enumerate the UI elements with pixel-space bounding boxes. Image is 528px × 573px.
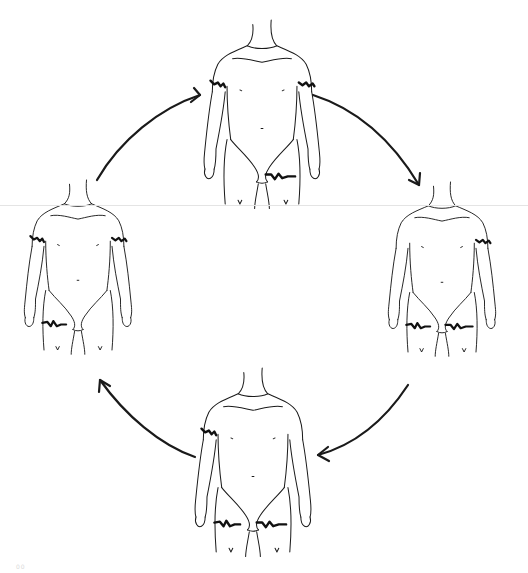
arrow-right-to-bottom: [318, 385, 408, 461]
figure-top: [204, 20, 320, 209]
arrow-bottom-to-left: [99, 380, 195, 457]
arrowhead-icon: [191, 88, 200, 102]
figure-left: [24, 180, 131, 354]
band-right-thigh: [406, 323, 430, 328]
band-right-thigh: [42, 321, 66, 326]
figure-right: [388, 182, 495, 356]
band-left-upper-arm: [476, 240, 490, 243]
figure-bottom: [195, 368, 311, 557]
band-left-thigh: [257, 522, 286, 528]
band-left-thigh: [445, 324, 472, 329]
corner-mark: 00: [16, 563, 26, 570]
scan-line-divider: [0, 205, 528, 206]
band-left-thigh: [266, 174, 295, 180]
band-left-upper-arm: [299, 83, 315, 87]
band-left-upper-arm: [112, 238, 126, 241]
diagram-canvas: [0, 0, 528, 573]
rotating-tourniquet-diagram: 00: [0, 0, 528, 573]
arrow-top-to-right: [313, 95, 420, 185]
arrow-left-to-top: [97, 88, 200, 180]
band-right-thigh: [214, 521, 240, 527]
